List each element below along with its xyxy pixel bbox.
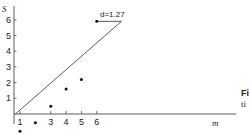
caption-line-1: Fi: [241, 88, 249, 99]
y-tick-label: 1: [6, 93, 11, 103]
x-tick-label: 4: [64, 117, 69, 127]
data-point: [34, 121, 37, 124]
x-tick-label: 3: [48, 117, 53, 127]
data-point: [19, 130, 22, 133]
y-axis-label: S: [2, 4, 7, 14]
y-tick-label: 6: [6, 15, 11, 25]
y-tick-label: 2: [6, 78, 11, 88]
reference-line: [15, 21, 121, 114]
x-axis-label: m: [212, 118, 219, 128]
data-point: [65, 87, 68, 90]
data-point: [80, 78, 83, 81]
axes: [14, 6, 236, 124]
x-tick-label: 6: [94, 117, 99, 127]
x-tick-label: 1: [18, 117, 23, 127]
scatter-chart: 13456123456 m S d=1.27: [0, 0, 249, 134]
x-tick-label: 5: [79, 117, 84, 127]
data-point: [49, 105, 52, 108]
figure-caption: Fi ti: [241, 88, 249, 110]
caption-line-2: ti: [241, 99, 249, 110]
reference-line-group: [15, 21, 121, 114]
y-tick-label: 4: [6, 46, 11, 56]
annotation-label: d=1.27: [100, 10, 125, 19]
y-tick-label: 3: [6, 62, 11, 72]
data-point: [95, 20, 98, 23]
y-tick-label: 5: [6, 31, 11, 41]
